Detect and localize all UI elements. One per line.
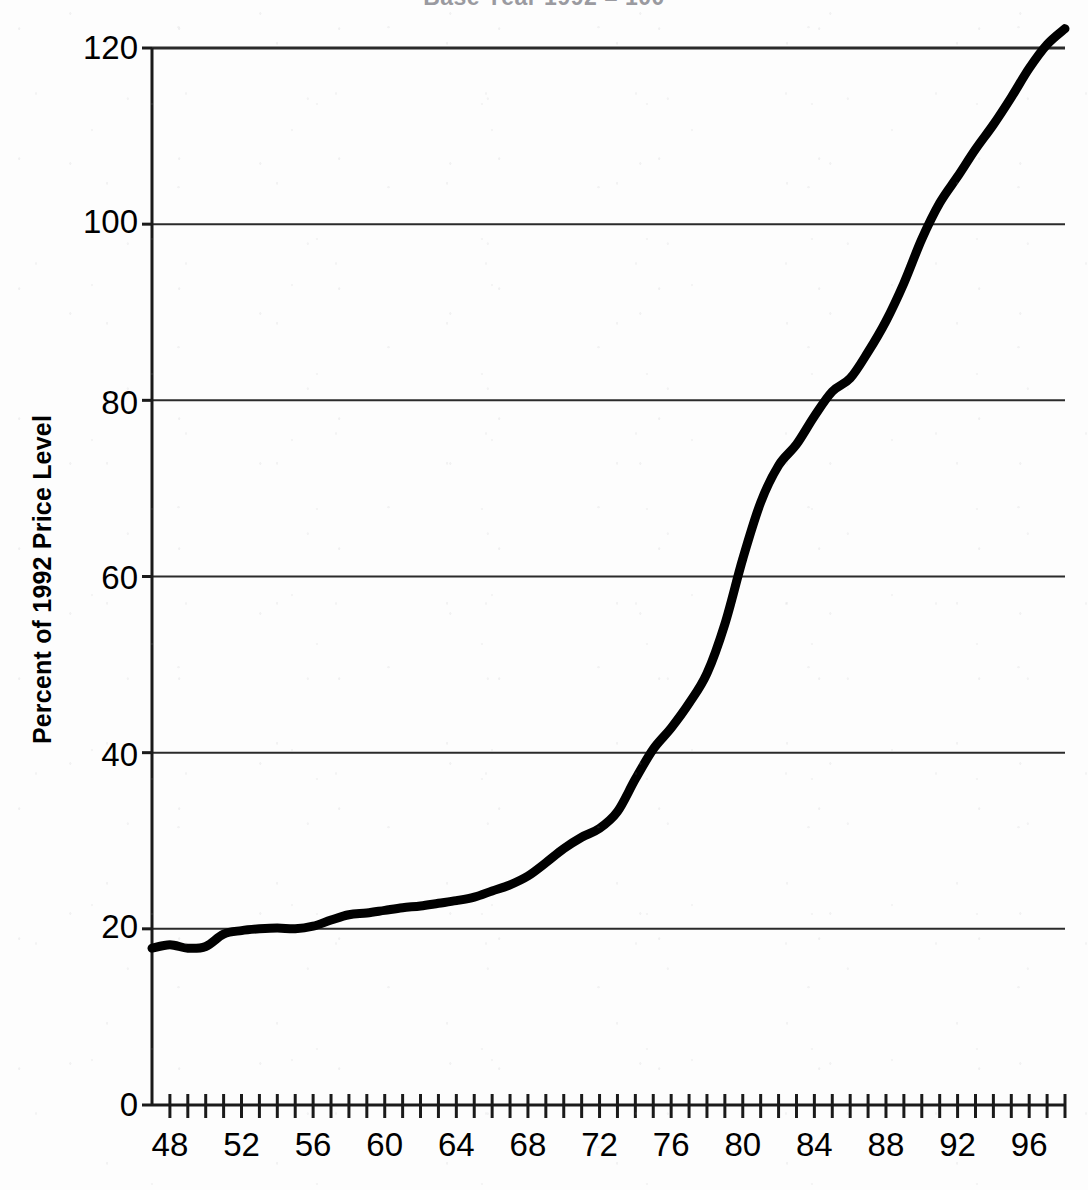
chart-figure: Base Year 1992 = 100 Percent of 1992 Pri… [0,0,1088,1190]
gridlines [152,48,1065,929]
data-series-line [152,29,1065,949]
plot-area [0,0,1088,1190]
